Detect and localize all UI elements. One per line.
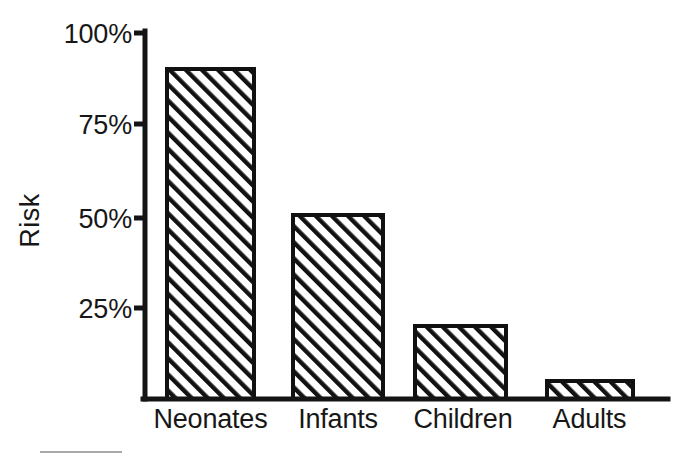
bar-neonates-fill [167, 69, 254, 399]
plot-area [0, 0, 693, 459]
bar-infants-fill [293, 215, 383, 399]
bar-infants [293, 215, 383, 399]
x-tick-label-adults: Adults [533, 404, 646, 435]
bar-adults-fill [547, 381, 633, 399]
bar-children [415, 326, 506, 399]
scan-line-artifact [40, 451, 122, 453]
x-tick-label-children: Children [402, 404, 524, 435]
risk-by-age-group-bar-chart: Risk 100% 75% 50% 25% [0, 0, 693, 459]
bar-children-fill [415, 326, 506, 399]
bar-series-risk [167, 69, 633, 399]
x-tick-label-infants: Infants [281, 404, 395, 435]
x-tick-label-neonates: Neonates [141, 404, 280, 435]
bar-neonates [167, 69, 254, 399]
bar-adults [547, 381, 633, 399]
